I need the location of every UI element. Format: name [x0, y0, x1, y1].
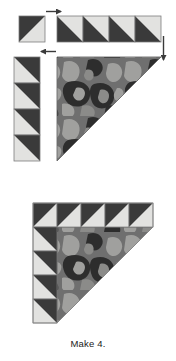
large-print-triangle: [57, 57, 161, 161]
finished-left-column: [33, 227, 57, 323]
single-hst-unit: [19, 16, 45, 42]
hst-strip-horizontal: [57, 16, 161, 42]
make-count-caption: Make 4.: [0, 338, 176, 349]
diagram-canvas: Make 4.: [0, 0, 176, 361]
step-1-top-unit-row: [19, 12, 164, 61]
finished-top-row: [33, 203, 153, 227]
step-2-column-and-print-triangle: [14, 52, 161, 162]
quilt-assembly-illustration: [0, 0, 176, 361]
hst-strip-vertical: [14, 57, 40, 161]
step-3-finished-corner-unit: [33, 203, 153, 323]
